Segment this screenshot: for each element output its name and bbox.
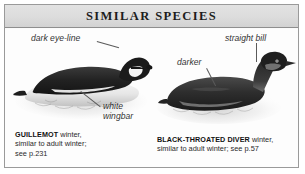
label-darker: darker	[177, 57, 201, 67]
similar-species-panel: SIMILAR SPECIES	[4, 4, 299, 168]
label-straight-bill: straight bill	[225, 33, 266, 43]
panel-header: SIMILAR SPECIES	[5, 5, 298, 28]
black-throated-diver-illustration	[157, 43, 297, 127]
caption-guillemot-line3: see p.231	[15, 149, 47, 158]
figure-guillemot: dark eye-line white wingbar GUILLEMOT wi…	[5, 29, 155, 168]
figure-black-throated-diver: straight bill darker BLACK-THROATED DIVE…	[153, 29, 298, 168]
caption-diver-line1-rest: winter,	[250, 135, 273, 144]
caption-guillemot-line1-rest: winter,	[58, 130, 81, 139]
leader-straight-bill	[256, 43, 257, 62]
caption-diver-line2: similar to adult winter; see p.57	[157, 144, 259, 153]
label-white-wingbar: white wingbar	[103, 101, 147, 121]
illustration-plate: dark eye-line white wingbar GUILLEMOT wi…	[5, 29, 298, 168]
caption-guillemot: GUILLEMOT winter, similar to adult winte…	[15, 130, 147, 158]
caption-guillemot-line2: similar to adult winter;	[15, 139, 86, 148]
species-name-guillemot: GUILLEMOT	[15, 130, 58, 139]
species-name-black-throated-diver: BLACK-THROATED DIVER	[157, 135, 250, 144]
label-dark-eye-line: dark eye-line	[31, 33, 80, 43]
page-title: SIMILAR SPECIES	[5, 9, 298, 24]
caption-black-throated-diver: BLACK-THROATED DIVER winter, similar to …	[157, 135, 298, 154]
